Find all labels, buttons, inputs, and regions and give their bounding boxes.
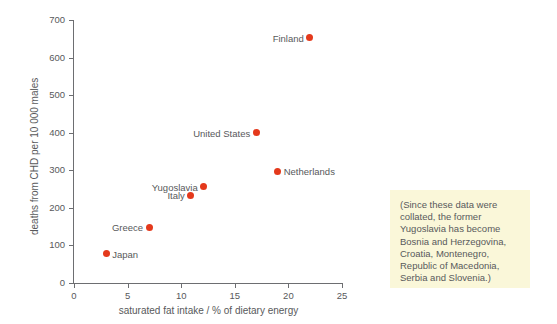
x-tick-mark <box>342 284 343 288</box>
data-point <box>187 192 194 199</box>
y-tick-label: 600 <box>25 52 65 63</box>
data-point <box>253 129 260 136</box>
data-point-label: United States <box>193 127 250 138</box>
data-point <box>306 34 313 41</box>
annotation-note-box: (Since these data were collated, the for… <box>390 190 530 288</box>
x-tick-label: 0 <box>59 290 89 301</box>
scatter-chart-figure: 0100200300400500600700 0510152025 JapanG… <box>0 0 557 324</box>
x-tick-label: 25 <box>327 290 357 301</box>
y-tick-label: 100 <box>25 239 65 250</box>
x-tick-mark <box>288 284 289 288</box>
y-tick-mark <box>69 58 73 59</box>
x-tick-mark <box>74 284 75 288</box>
y-tick-mark <box>69 20 73 21</box>
y-tick-mark <box>69 208 73 209</box>
y-tick-mark <box>69 133 73 134</box>
y-tick-mark <box>69 170 73 171</box>
data-point <box>274 168 281 175</box>
data-point <box>146 224 153 231</box>
y-tick-label: 0 <box>25 277 65 288</box>
x-tick-mark <box>235 284 236 288</box>
data-point-label: Netherlands <box>284 166 335 177</box>
y-tick-mark <box>69 283 73 284</box>
x-tick-label: 5 <box>113 290 143 301</box>
x-tick-mark <box>128 284 129 288</box>
data-point <box>103 250 110 257</box>
data-point-label: Finland <box>273 32 304 43</box>
data-point-label: Japan <box>112 248 138 259</box>
x-axis-line <box>74 283 343 284</box>
y-tick-mark <box>69 245 73 246</box>
data-point-label: Greece <box>112 222 143 233</box>
x-tick-label: 10 <box>166 290 196 301</box>
x-tick-label: 20 <box>273 290 303 301</box>
data-point-label: Yugoslavia <box>152 181 198 192</box>
annotation-note-text: (Since these data were collated, the for… <box>400 199 520 284</box>
y-axis-title: deaths from CHD per 10 000 males <box>29 78 40 235</box>
x-axis-title: saturated fat intake / % of dietary ener… <box>74 305 343 316</box>
y-tick-label: 700 <box>25 14 65 25</box>
x-tick-mark <box>181 284 182 288</box>
y-axis-line <box>73 20 74 284</box>
y-tick-mark <box>69 95 73 96</box>
x-tick-label: 15 <box>220 290 250 301</box>
data-point <box>200 183 207 190</box>
